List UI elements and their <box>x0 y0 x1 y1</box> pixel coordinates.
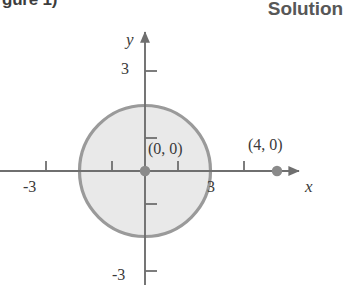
x-tick-label-neg3: -3 <box>23 178 36 196</box>
y-axis-label: y <box>126 30 134 50</box>
point-label-origin: (0, 0) <box>148 140 183 158</box>
point-origin-marker <box>140 166 150 176</box>
figure-caption: gure 1) <box>2 0 57 12</box>
y-tick-label-3: 3 <box>121 60 129 78</box>
figure-root: gure 1) Solution <box>0 0 349 295</box>
point-four-zero-marker <box>272 166 282 176</box>
x-axis-label: x <box>305 177 313 197</box>
point-label-four-zero: (4, 0) <box>248 136 283 154</box>
coordinate-plot: y x 3 -3 -3 3 (0, 0) (4, 0) <box>0 18 349 295</box>
solution-heading: Solution <box>268 0 343 20</box>
x-tick-label-3: 3 <box>207 178 215 196</box>
y-tick-label-neg3: -3 <box>112 266 125 284</box>
